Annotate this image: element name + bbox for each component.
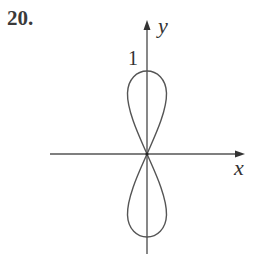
- y-axis-arrow-icon: [144, 20, 151, 30]
- curve-figure: y x 1: [0, 0, 256, 254]
- y-axis-label: y: [156, 13, 168, 38]
- tick-label-1: 1: [128, 47, 138, 69]
- x-axis-label: x: [233, 155, 244, 180]
- origin-point: [145, 152, 148, 155]
